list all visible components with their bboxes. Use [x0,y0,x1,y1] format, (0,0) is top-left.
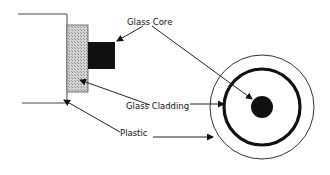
plastic-jacket-side [18,14,67,103]
label-glass-cladding: Glass Cladding [126,102,189,111]
plastic-pointer-side [64,100,120,132]
core-circle [251,96,273,118]
core-pointer-side [117,26,143,41]
core-side [88,42,115,69]
core-pointer-cross [152,26,252,99]
label-glass-core: Glass Core [127,18,172,27]
label-plastic: Plastic [120,129,148,138]
